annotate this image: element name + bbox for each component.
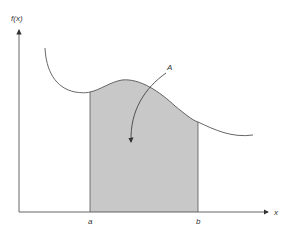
area-label: A (166, 63, 172, 72)
lower-bound-label: a (88, 217, 93, 226)
upper-bound-label: b (196, 217, 201, 226)
integral-area-diagram: f(x) x a b A (0, 0, 291, 228)
y-axis-label: f(x) (11, 14, 23, 23)
x-axis-label: x (273, 208, 279, 217)
shaded-area (90, 80, 198, 212)
